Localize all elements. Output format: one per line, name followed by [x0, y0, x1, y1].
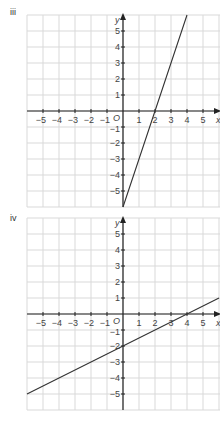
x-tick-label: −1: [100, 115, 110, 125]
y-tick-label: 3: [115, 58, 120, 68]
y-tick-label: −1: [110, 327, 120, 337]
origin-label: O: [113, 316, 120, 326]
y-tick-label: −5: [110, 186, 120, 196]
y-axis-arrow-icon: [120, 216, 126, 223]
graph-iv: −5−4−3−2−112345−5−4−3−212345−1Oxy: [0, 207, 220, 419]
y-axis-label: y: [114, 218, 120, 228]
x-tick-label: 5: [200, 115, 205, 125]
y-tick-label: 2: [115, 277, 120, 287]
graph-iii: −5−4−3−2−112345−5−4−3−212345−1Oxy: [0, 0, 220, 212]
y-tick-label: −3: [110, 154, 120, 164]
y-tick-label: 4: [115, 42, 120, 52]
x-axis-label: x: [215, 115, 220, 125]
y-axis-label: y: [114, 15, 120, 25]
y-tick-label: 2: [115, 74, 120, 84]
x-tick-label: 3: [168, 115, 173, 125]
y-axis-arrow-icon: [120, 13, 126, 20]
x-tick-label: −2: [84, 318, 94, 328]
y-tick-label: 3: [115, 261, 120, 271]
x-tick-label: −5: [36, 318, 46, 328]
y-tick-label: −4: [110, 373, 120, 383]
y-tick-label: 5: [115, 229, 120, 239]
x-tick-label: −4: [52, 115, 62, 125]
y-tick-label: 4: [115, 245, 120, 255]
y-tick-label: 1: [115, 90, 120, 100]
x-tick-label: 1: [136, 115, 141, 125]
y-tick-label: −3: [110, 357, 120, 367]
origin-label: O: [113, 113, 120, 123]
x-tick-label: −4: [52, 318, 62, 328]
y-tick-label: −4: [110, 170, 120, 180]
x-tick-label: −2: [84, 115, 94, 125]
x-tick-label: 1: [136, 318, 141, 328]
x-tick-label: 5: [200, 318, 205, 328]
x-tick-label: −3: [68, 115, 78, 125]
x-tick-label: 4: [184, 115, 189, 125]
x-tick-label: −5: [36, 115, 46, 125]
y-tick-label: −1: [110, 124, 120, 134]
x-tick-label: −1: [100, 318, 110, 328]
y-tick-label: 5: [115, 26, 120, 36]
y-tick-label: −2: [110, 138, 120, 148]
x-tick-label: 2: [152, 318, 157, 328]
x-tick-label: 4: [184, 318, 189, 328]
y-tick-label: 1: [115, 293, 120, 303]
x-tick-label: −3: [68, 318, 78, 328]
x-axis-label: x: [215, 318, 220, 328]
y-tick-label: −5: [110, 389, 120, 399]
